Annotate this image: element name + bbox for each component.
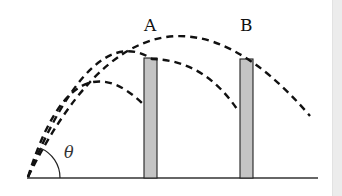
wall-a [144,58,157,178]
wall-b-label: B [240,15,253,35]
angle-label: θ [64,143,74,162]
wall-b [240,59,253,178]
angle-arc [40,148,60,178]
trajectory-short [28,81,143,177]
side-border-strip [332,0,342,196]
wall-a-label: A [143,15,157,35]
trajectory-middle [28,51,239,177]
